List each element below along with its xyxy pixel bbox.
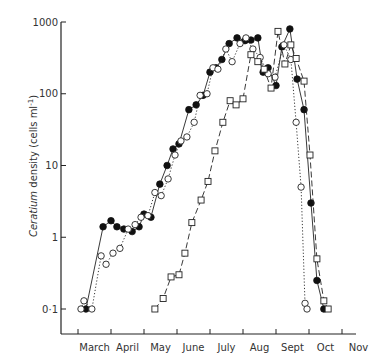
ceratium-density-chart: 0·11101001000MarchAprilMayJuneJulyAugSep… — [0, 0, 386, 362]
data-point — [293, 55, 299, 61]
data-point — [294, 76, 301, 83]
data-point — [158, 192, 164, 198]
y-tick-label: 1 — [52, 232, 58, 243]
y-tick-label: 10 — [45, 160, 58, 171]
data-point — [261, 66, 267, 72]
data-point — [255, 35, 262, 42]
data-point — [108, 217, 115, 224]
data-point — [191, 119, 197, 125]
data-point — [189, 220, 195, 226]
data-point — [248, 52, 254, 58]
data-point — [268, 85, 274, 91]
series-line — [86, 29, 324, 309]
y-axis-title: Ceratium density (cells ml-1) — [27, 95, 39, 237]
y-tick-label: 1000 — [33, 17, 58, 28]
y-tick-label: 0·1 — [42, 304, 58, 315]
data-point — [168, 274, 174, 280]
data-point — [152, 306, 158, 312]
ylabel-italic: Ceratium — [28, 191, 39, 237]
data-point — [117, 245, 123, 251]
series-layer — [78, 26, 331, 313]
series-open-circle — [78, 35, 310, 312]
month-label: March — [79, 342, 109, 353]
data-point — [81, 298, 87, 304]
month-label: Sept — [281, 342, 304, 353]
data-point — [233, 102, 239, 108]
data-point — [237, 40, 243, 46]
data-point — [184, 134, 190, 140]
data-point — [288, 42, 294, 48]
data-point — [204, 91, 210, 97]
data-point — [176, 272, 182, 278]
data-point — [255, 59, 261, 65]
data-point — [170, 146, 177, 153]
month-label: June — [182, 342, 205, 353]
data-point — [165, 176, 171, 182]
data-point — [212, 148, 218, 154]
data-point — [229, 58, 235, 64]
ylabel-rest: density (cells ml — [28, 106, 39, 191]
month-label: April — [116, 342, 139, 353]
data-point — [138, 214, 144, 220]
data-point — [132, 221, 138, 227]
month-label: Aug — [250, 342, 270, 353]
data-point — [110, 250, 116, 256]
data-point — [100, 223, 107, 230]
data-point — [298, 184, 304, 190]
data-point — [321, 298, 327, 304]
data-point — [164, 162, 171, 169]
data-point — [114, 223, 121, 230]
data-point — [160, 296, 166, 302]
data-point — [220, 119, 226, 125]
series-line — [155, 31, 328, 309]
data-point — [78, 306, 84, 312]
data-point — [307, 152, 313, 158]
data-point — [172, 152, 178, 158]
ylabel-sup: -1 — [27, 99, 35, 106]
data-point — [275, 28, 281, 34]
data-point — [186, 106, 193, 113]
y-tick-label: 100 — [39, 88, 58, 99]
data-point — [227, 98, 233, 104]
data-point — [219, 56, 226, 63]
month-label: May — [150, 342, 171, 353]
data-point — [98, 253, 104, 259]
data-point — [304, 306, 310, 312]
data-point — [197, 92, 203, 98]
data-point — [282, 61, 288, 67]
data-point — [198, 197, 204, 203]
data-point — [103, 261, 109, 267]
data-point — [243, 35, 249, 41]
data-point — [223, 46, 229, 52]
month-label: Nov — [349, 342, 369, 353]
data-point — [182, 250, 188, 256]
ylabel-close: ) — [28, 95, 39, 99]
data-point — [152, 189, 158, 195]
data-point — [215, 66, 221, 72]
month-label: July — [217, 342, 236, 353]
data-point — [205, 178, 211, 184]
data-point — [314, 256, 320, 262]
data-point — [314, 277, 321, 284]
series-filled-circle — [83, 26, 328, 313]
data-point — [157, 181, 164, 188]
month-label: Oct — [317, 342, 334, 353]
data-point — [145, 212, 151, 218]
data-point — [301, 78, 307, 84]
data-point — [125, 226, 131, 232]
svg-text:Ceratium density (cells ml-1): Ceratium density (cells ml-1) — [27, 95, 39, 237]
data-point — [240, 96, 246, 102]
data-point — [293, 119, 299, 125]
data-point — [178, 138, 184, 144]
data-point — [89, 306, 95, 312]
data-point — [287, 26, 294, 33]
data-point — [325, 306, 331, 312]
